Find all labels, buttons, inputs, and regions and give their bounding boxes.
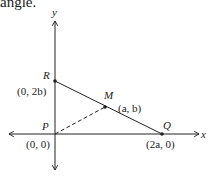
segment-PM-dashed bbox=[55, 107, 105, 134]
point-Q-coord: (2a, 0) bbox=[146, 138, 175, 151]
point-M-label: M bbox=[103, 89, 114, 101]
point-R-coord: (0, 2b) bbox=[17, 85, 47, 98]
point-P-coord: (0, 0) bbox=[26, 138, 50, 151]
point-R bbox=[53, 79, 57, 83]
point-M-coord: (a, b) bbox=[118, 102, 142, 115]
point-M bbox=[103, 105, 107, 109]
point-Q-label: Q bbox=[163, 119, 171, 131]
point-R-label: R bbox=[42, 69, 50, 81]
point-Q bbox=[160, 132, 164, 136]
point-P-label: P bbox=[41, 120, 49, 132]
x-axis-label: x bbox=[200, 128, 206, 140]
y-axis-label: y bbox=[51, 6, 57, 18]
coordinate-diagram: x y R (0, 2b) M (a, b) P (0, 0) Q (2a, 0… bbox=[0, 0, 211, 176]
